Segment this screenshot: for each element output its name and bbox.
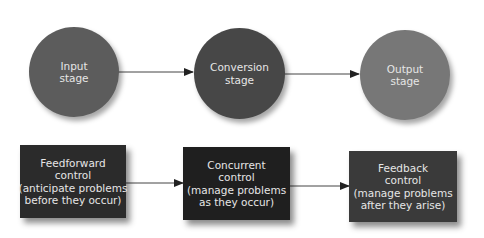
conversion-stage-label-line1: Conversion: [210, 61, 269, 74]
input-stage-node: Input stage: [29, 27, 119, 117]
concurrent-subtitle: control: [218, 171, 254, 184]
feedforward-control-box: Feedforward control (anticipate problems…: [20, 145, 126, 218]
feedback-subtitle: control: [385, 174, 421, 187]
feedback-desc-line2: after they arise): [361, 199, 446, 212]
feedback-desc-line1: (manage problems: [353, 187, 452, 200]
concurrent-desc-line2: as they occur): [199, 196, 274, 209]
feedforward-subtitle: control: [55, 169, 91, 182]
feedforward-desc-line2: before they occur): [25, 194, 122, 207]
output-stage-node: Output stage: [360, 30, 450, 120]
conversion-stage-node: Conversion stage: [194, 28, 285, 119]
feedforward-title: Feedforward: [40, 157, 105, 170]
concurrent-title: Concurrent: [207, 159, 265, 172]
feedback-control-box: Feedback control (manage problems after …: [349, 151, 457, 222]
conversion-stage-label-line2: stage: [225, 74, 254, 87]
output-stage-label-line2: stage: [390, 75, 419, 88]
concurrent-desc-line1: (manage problems: [187, 184, 286, 197]
feedforward-desc-line1: (anticipate problems: [19, 182, 128, 195]
input-stage-label-line2: stage: [59, 72, 88, 85]
concurrent-control-box: Concurrent control (manage problems as t…: [183, 147, 290, 220]
input-stage-label-line1: Input: [60, 60, 87, 73]
feedback-title: Feedback: [378, 162, 428, 175]
output-stage-label-line1: Output: [387, 63, 423, 76]
